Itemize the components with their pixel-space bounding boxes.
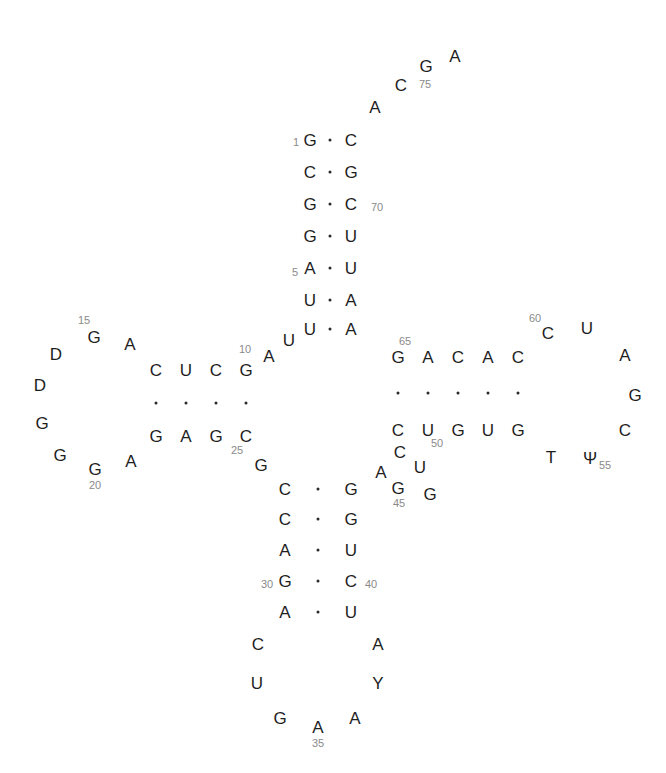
nucleotide-22: G — [149, 428, 162, 445]
base-pair-dot-31-39 — [317, 611, 320, 614]
position-label-65: 65 — [399, 336, 411, 347]
nucleotide-28: C — [279, 511, 291, 528]
nucleotide-34: G — [273, 710, 286, 727]
nucleotide-3: G — [303, 196, 316, 213]
nucleotide-68: U — [345, 260, 357, 277]
nucleotide-67: A — [345, 292, 356, 309]
nucleotide-53: G — [511, 422, 524, 439]
nucleotide-4: G — [303, 228, 316, 245]
position-label-70: 70 — [371, 202, 383, 213]
position-label-5: 5 — [292, 267, 298, 278]
base-pair-dot-53-61 — [517, 392, 520, 395]
nucleotide-6: U — [304, 292, 316, 309]
nucleotide-56: C — [619, 422, 631, 439]
position-label-20: 20 — [89, 480, 101, 491]
nucleotide-62: A — [482, 349, 493, 366]
nucleotide-29: A — [279, 542, 290, 559]
nucleotide-37: Y — [372, 675, 383, 692]
nucleotide-74: C — [395, 77, 407, 94]
base-pair-dot-29-41 — [317, 549, 320, 552]
nucleotide-33: U — [251, 675, 263, 692]
nucleotide-40: C — [345, 573, 357, 590]
base-pair-dot-49-65 — [397, 392, 400, 395]
nucleotide-5: A — [304, 260, 315, 277]
position-label-30: 30 — [261, 579, 273, 590]
nucleotide-20: G — [88, 461, 101, 478]
nucleotide-2: C — [304, 164, 316, 181]
nucleotide-23: A — [180, 428, 191, 445]
base-pair-dot-2-71 — [329, 171, 332, 174]
nucleotide-64: A — [422, 349, 433, 366]
nucleotide-12: U — [180, 362, 192, 379]
nucleotide-7: U — [304, 321, 316, 338]
nucleotide-15: G — [87, 329, 100, 346]
nucleotide-51: G — [451, 422, 464, 439]
base-pair-dot-27-43 — [317, 488, 320, 491]
base-pair-dot-30-40 — [317, 580, 320, 583]
nucleotide-19: G — [53, 447, 66, 464]
nucleotide-46: G — [423, 486, 436, 503]
position-label-40: 40 — [365, 579, 377, 590]
nucleotide-45: G — [391, 480, 404, 497]
trna-cloverleaf-diagram: GCGGAUUUAGCUCAGDDGGGAGAGCGCCAGACUGAAYAUC… — [0, 0, 666, 773]
base-pair-dot-28-42 — [317, 518, 320, 521]
nucleotide-66: A — [345, 321, 356, 338]
position-label-55: 55 — [599, 460, 611, 471]
nucleotide-48: C — [394, 444, 406, 461]
nucleotide-30: G — [278, 573, 291, 590]
position-label-35: 35 — [312, 738, 324, 749]
base-pair-dot-7-66 — [329, 328, 332, 331]
base-pair-dot-12-23 — [215, 402, 218, 405]
nucleotide-52: U — [482, 422, 494, 439]
nucleotide-41: U — [345, 542, 357, 559]
nucleotide-1: G — [303, 132, 316, 149]
nucleotide-31: A — [279, 604, 290, 621]
nucleotide-43: G — [344, 481, 357, 498]
base-pair-dot-50-64 — [427, 392, 430, 395]
base-pair-dot-1-72 — [329, 139, 332, 142]
nucleotide-27: C — [279, 481, 291, 498]
nucleotide-49: C — [392, 422, 404, 439]
nucleotide-75: G — [419, 58, 432, 75]
nucleotide-32: C — [252, 636, 264, 653]
nucleotide-61: C — [512, 349, 524, 366]
nucleotide-36: A — [349, 710, 360, 727]
base-pair-dot-10-25 — [155, 402, 158, 405]
nucleotide-58: A — [619, 347, 630, 364]
position-label-75: 75 — [419, 79, 431, 90]
nucleotide-55: Ψ — [583, 450, 597, 467]
nucleotide-35: A — [312, 719, 323, 736]
nucleotide-59: U — [581, 320, 593, 337]
nucleotide-54: T — [546, 449, 556, 466]
nucleotide-47: U — [414, 459, 426, 476]
nucleotide-26: G — [254, 457, 267, 474]
position-label-45: 45 — [393, 498, 405, 509]
nucleotide-38: A — [372, 636, 383, 653]
position-label-10: 10 — [239, 344, 251, 355]
nucleotide-73: A — [369, 99, 380, 116]
nucleotide-16: D — [50, 346, 62, 363]
nucleotide-9: A — [263, 348, 274, 365]
nucleotide-44: A — [375, 464, 386, 481]
base-pair-dot-51-63 — [457, 392, 460, 395]
base-pair-dot-3-70 — [329, 203, 332, 206]
nucleotide-72: C — [345, 132, 357, 149]
position-label-50: 50 — [431, 438, 443, 449]
base-pair-dot-52-62 — [487, 392, 490, 395]
base-pair-dot-11-24 — [185, 402, 188, 405]
nucleotide-63: C — [452, 349, 464, 366]
base-pair-dot-13-22 — [245, 402, 248, 405]
nucleotide-76: A — [449, 48, 460, 65]
nucleotide-39: U — [345, 604, 357, 621]
nucleotide-11: C — [150, 362, 162, 379]
nucleotide-13: C — [210, 362, 222, 379]
nucleotide-24: G — [209, 428, 222, 445]
nucleotide-14: A — [124, 336, 135, 353]
nucleotide-71: G — [344, 164, 357, 181]
nucleotide-17: D — [34, 377, 46, 394]
nucleotide-18: G — [35, 415, 48, 432]
nucleotide-25: C — [240, 428, 252, 445]
position-label-15: 15 — [78, 315, 90, 326]
nucleotide-69: U — [345, 228, 357, 245]
nucleotide-70: C — [345, 196, 357, 213]
